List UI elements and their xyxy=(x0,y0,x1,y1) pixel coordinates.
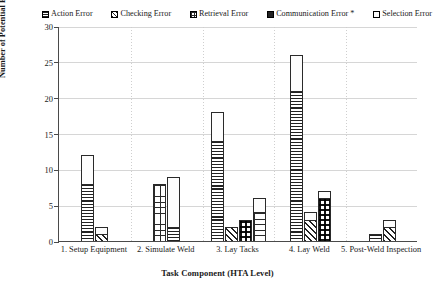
hatch-horizontal-swatch-icon xyxy=(42,11,49,18)
bar-chart: Action ErrorChecking ErrorRetrieval Erro… xyxy=(0,0,435,286)
bar xyxy=(383,220,396,242)
legend-item-label: Communication Error * xyxy=(276,9,354,19)
bar xyxy=(211,112,224,241)
bar-segment xyxy=(81,155,94,184)
bar xyxy=(239,220,252,242)
legend-item-label: Checking Error xyxy=(120,9,171,19)
bar-segment xyxy=(95,234,108,241)
legend-item-label: Action Error xyxy=(51,9,93,19)
bar-segment xyxy=(304,212,317,219)
y-axis-tick-label: 25 xyxy=(31,58,53,67)
legend-item: Retrieval Error xyxy=(190,9,248,19)
y-axis-tick-label: 10 xyxy=(31,166,53,175)
bar-group xyxy=(274,27,346,241)
legend-item-label: Retrieval Error xyxy=(199,9,248,19)
hatch-grid-swatch-icon xyxy=(190,11,197,18)
bar xyxy=(167,177,180,242)
bar-segment xyxy=(383,227,396,241)
bar-group xyxy=(203,27,275,241)
bar-segment xyxy=(253,198,266,212)
bar-group xyxy=(346,27,418,241)
bar xyxy=(304,212,317,241)
bar xyxy=(290,55,303,241)
bar-segment xyxy=(253,212,266,241)
y-axis-tick-label: 0 xyxy=(31,238,53,247)
bar-segment xyxy=(81,184,94,241)
bar-segment xyxy=(211,141,224,241)
y-axis-tick-label: 15 xyxy=(31,130,53,139)
legend-item-label: Selection Error xyxy=(382,9,432,19)
bar xyxy=(318,191,331,241)
hatch-diagonal-swatch-icon xyxy=(111,11,118,18)
bar-segment xyxy=(211,112,224,141)
legend-item: Selection Error xyxy=(373,9,432,19)
bar-segment xyxy=(225,227,238,241)
bar xyxy=(253,198,266,241)
bar-segment xyxy=(383,220,396,227)
bar-group xyxy=(131,27,203,241)
y-axis-tick-label: 20 xyxy=(31,94,53,103)
bar-segment xyxy=(167,177,180,227)
hatch-white-swatch-icon xyxy=(373,11,380,18)
bar-segment xyxy=(369,234,382,241)
x-axis-category-label: 5. Post-Weld Inspection xyxy=(338,245,424,256)
y-axis-tick-label: 30 xyxy=(31,23,53,32)
legend-item: Action Error xyxy=(42,9,93,19)
bar-segment xyxy=(318,198,331,241)
bar xyxy=(369,234,382,241)
bar-segment xyxy=(239,220,252,242)
bar-segment xyxy=(95,227,108,234)
bar-segment xyxy=(304,220,317,242)
bar-segment xyxy=(290,55,303,91)
bar-segment xyxy=(167,227,180,241)
bar xyxy=(225,227,238,241)
bar-segment xyxy=(318,191,331,198)
legend-item: Communication Error * xyxy=(267,9,354,19)
bar-segment xyxy=(153,184,166,241)
legend-item: Checking Error xyxy=(111,9,171,19)
plot-area: 051015202530 xyxy=(58,27,417,242)
chart-legend: Action ErrorChecking ErrorRetrieval Erro… xyxy=(42,7,432,21)
bar-group xyxy=(59,27,131,241)
y-axis-title: Number of Potential Errors xyxy=(0,0,7,78)
y-axis-tick xyxy=(54,242,59,243)
bar xyxy=(95,227,108,241)
bar-segment xyxy=(290,91,303,242)
bar xyxy=(81,155,94,241)
hatch-solid-swatch-icon xyxy=(267,11,274,18)
x-axis-title: Task Component (HTA Level) xyxy=(0,268,435,278)
y-axis-tick-label: 5 xyxy=(31,202,53,211)
bar xyxy=(153,184,166,241)
